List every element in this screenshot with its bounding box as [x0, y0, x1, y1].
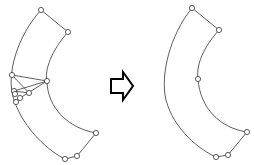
outer-curve [11, 10, 65, 159]
edge-line [20, 81, 47, 98]
edge-line [41, 10, 68, 32]
control-point[interactable] [189, 5, 194, 10]
left-shape [9, 7, 98, 161]
control-point[interactable] [93, 130, 98, 135]
control-point[interactable] [216, 27, 221, 32]
control-point[interactable] [195, 76, 200, 81]
inner-curve [46, 32, 96, 133]
control-point[interactable] [65, 29, 70, 34]
control-point[interactable] [26, 90, 31, 95]
edge-line [77, 133, 96, 156]
outer-curve [164, 8, 216, 157]
control-point[interactable] [244, 129, 249, 134]
inner-curve [198, 30, 247, 132]
edge-line [192, 8, 219, 30]
diagram-canvas [0, 0, 254, 165]
right-shape [164, 5, 249, 159]
control-point[interactable] [38, 7, 43, 12]
control-point[interactable] [17, 95, 22, 100]
control-point[interactable] [213, 154, 218, 159]
right-arrow-icon [111, 72, 133, 100]
edge-line [228, 132, 247, 155]
control-point[interactable] [12, 91, 17, 96]
control-point[interactable] [44, 78, 49, 83]
control-point[interactable] [74, 153, 79, 158]
control-point[interactable] [225, 152, 230, 157]
control-point[interactable] [13, 99, 18, 104]
control-point[interactable] [62, 156, 67, 161]
control-point[interactable] [9, 72, 14, 77]
